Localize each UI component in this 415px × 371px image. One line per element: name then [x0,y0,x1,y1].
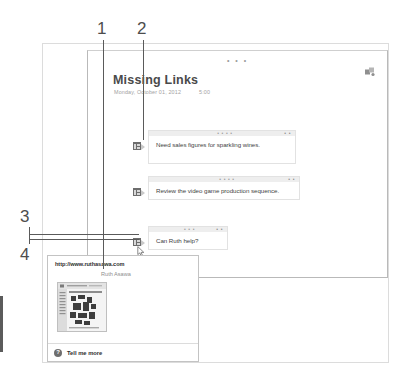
tell-me-more-label[interactable]: Tell me more [67,350,102,356]
message-bubble[interactable]: • • • • • Can Ruth help? [148,226,228,250]
webpage-thumbnail[interactable] [57,282,107,332]
message-row[interactable]: • • • • • • Need sales figures for spark… [133,130,296,164]
contact-badge-icon[interactable] [133,188,143,197]
callout-leader-4 [29,239,139,240]
message-text: Can Ruth help? [149,232,227,249]
callout-leader-3-cap [29,227,30,244]
page-edge-marker [0,296,3,352]
message-row[interactable]: • • • • • Can Ruth help? [133,226,228,250]
bubble-dots: • • • • [219,176,234,182]
journal-page-pane: • • • Missing Links Monday, October 01, … [87,50,388,278]
message-bubble[interactable]: • • • • • • Review the video game produc… [148,176,300,200]
bubble-header-bar: • • • • • • [149,177,299,182]
message-row[interactable]: • • • • • • Review the video game produc… [133,176,300,200]
link-preview-popup[interactable]: http://www.ruthasawa.com Ruth Asawa [47,255,199,362]
callout-number-1: 1 [97,20,106,37]
bubble-header-bar: • • • • • [149,227,227,232]
page-time: 5:00 [199,89,210,95]
message-text: Review the video game production sequenc… [149,182,299,199]
callout-number-2: 2 [137,20,146,37]
callout-number-4: 4 [20,246,29,263]
preview-footer[interactable]: Tell me more [48,343,198,361]
bubble-header-bar: • • • • • • [149,131,295,136]
preview-title: Ruth Asawa [101,271,131,277]
message-text: Need sales figures for sparkling wines. [149,136,295,153]
bubble-actions-dots[interactable]: • • [216,226,223,232]
callout-number-3: 3 [20,208,29,225]
page-title: Missing Links [113,73,198,87]
page-meta: Monday, October 01, 20125:00 [114,89,210,95]
mouse-cursor-icon [137,243,146,254]
callout-leader-3 [29,234,139,235]
bubble-dots: • • • [184,226,195,232]
help-question-icon[interactable] [54,349,62,357]
pane-handle-dots: • • • [227,57,248,64]
bubble-spacer [149,153,295,163]
contact-badge-icon[interactable] [133,142,143,151]
message-bubble[interactable]: • • • • • • Need sales figures for spark… [148,130,296,164]
callout-leader-2 [143,40,144,140]
bubble-actions-dots[interactable]: • • [284,130,291,136]
page-date: Monday, October 01, 2012 [114,89,181,95]
bubble-actions-dots[interactable]: • • [288,176,295,182]
share-icon[interactable] [364,64,376,76]
bubble-dots: • • • • [217,130,232,136]
preview-url[interactable]: http://www.ruthasawa.com [55,261,124,267]
